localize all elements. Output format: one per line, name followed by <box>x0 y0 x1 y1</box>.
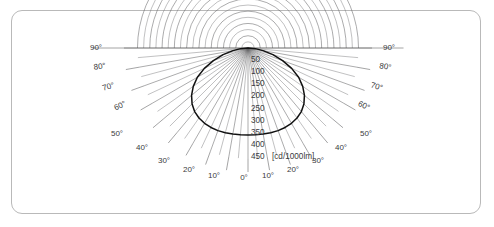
angle-tick-label: 50° <box>111 129 123 138</box>
angle-tick-label: 70° <box>370 81 384 93</box>
radial-tick-label: 450 <box>251 152 265 161</box>
angle-tick-label: 70° <box>101 81 115 93</box>
polar-grid-rays <box>137 48 358 159</box>
angle-tick-label: 90° <box>90 43 102 52</box>
unit-label-text: [cd/1000lm] <box>272 152 314 161</box>
radial-tick-labels: 50100150200250300350400450 <box>251 55 265 161</box>
polar-chart-svg: 50100150200250300350400450 90°80°70°60°5… <box>0 0 494 227</box>
angle-tick-label: 10° <box>208 171 220 180</box>
angle-tick-label: 80° <box>93 61 106 72</box>
angle-tick-label: 50° <box>360 129 372 138</box>
screenshot-root: 50100150200250300350400450 90°80°70°60°5… <box>0 0 494 227</box>
angle-tick-label: 40° <box>136 143 148 152</box>
radial-tick-label: 100 <box>251 67 265 76</box>
angle-tick-label: 30° <box>158 156 170 165</box>
polar-light-distribution-chart: 50100150200250300350400450 90°80°70°60°5… <box>0 0 494 227</box>
radial-tick-label: 150 <box>251 79 265 88</box>
angle-tick-label: 90° <box>383 43 395 52</box>
unit-label: [cd/1000lm] <box>272 152 314 161</box>
angle-tick-label: 20° <box>183 165 195 174</box>
radial-tick-label: 250 <box>251 104 265 113</box>
angle-tick-label: 10° <box>262 171 274 180</box>
polar-grid-arcs <box>137 0 358 48</box>
angle-tick-label: 40° <box>335 143 347 152</box>
angle-tick-label: 20° <box>287 165 299 174</box>
radial-tick-label: 400 <box>251 140 265 149</box>
angle-tick-label: 60° <box>357 99 372 112</box>
radial-tick-label: 50 <box>251 55 261 64</box>
radial-tick-label: 350 <box>251 128 265 137</box>
angle-tick-label: 0° <box>240 173 248 182</box>
angle-tick-label: 60° <box>113 99 128 112</box>
angle-tick-label: 80° <box>379 61 392 72</box>
radial-tick-label: 300 <box>251 116 265 125</box>
radial-tick-label: 200 <box>251 91 265 100</box>
